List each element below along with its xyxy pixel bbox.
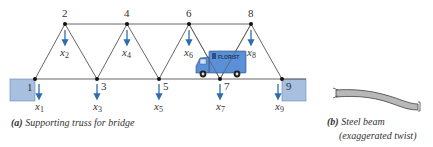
node-label-3: 3 [101,81,107,92]
node-label-5: 5 [163,81,169,92]
truck-label: FLORIST [218,54,239,60]
displacement-label-x4: x4 [122,47,131,60]
node-label-7: 7 [224,81,230,92]
displacement-label-x1: x1 [35,101,44,114]
caption-a: (a) Supporting truss for bridge [11,117,134,128]
displacement-label-x8: x8 [247,47,256,60]
truss-members [35,24,306,79]
displacement-label-x7: x7 [216,101,225,114]
steel-beam [333,88,420,111]
displacement-label-x6: x6 [184,47,193,60]
node-label-2: 2 [62,8,68,19]
displacement-label-x2: x2 [60,47,69,60]
node-label-8: 8 [248,8,254,19]
node-label-9: 9 [286,81,292,92]
node-label-1: 1 [27,82,33,93]
caption-b: (b) Steel beam [327,116,385,127]
displacement-label-x9: x9 [275,101,284,114]
florist-truck: FLORIST [196,51,246,77]
displacement-label-x5: x5 [154,101,163,114]
node-label-4: 4 [124,8,130,19]
displacement-label-x3: x3 [93,101,102,114]
node-label-6: 6 [186,8,192,19]
caption-b-line2: (exaggerated twist) [339,130,416,141]
